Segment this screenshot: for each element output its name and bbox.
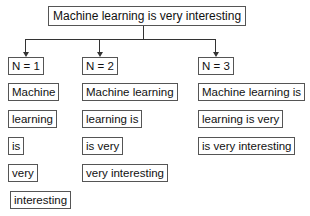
n1-gram: learning [8, 110, 57, 128]
connector-stem [143, 26, 144, 39]
n2-header: N = 2 [82, 57, 118, 75]
n1-gram: Machine [8, 83, 59, 101]
n2-gram: is very [82, 137, 123, 155]
connector-n3 [215, 39, 216, 53]
connector-horizontal [25, 39, 216, 40]
n3-gram: Machine learning is [198, 83, 305, 101]
n1-gram: very [8, 164, 38, 182]
n1-gram: interesting [10, 191, 71, 209]
root-sentence-box: Machine learning is very interesting [48, 6, 246, 26]
n3-gram: is very interesting [198, 137, 295, 155]
n2-gram: very interesting [82, 164, 168, 182]
n2-gram: Machine learning [82, 83, 178, 101]
n1-header: N = 1 [8, 57, 44, 75]
n3-gram: learning is very [198, 110, 283, 128]
connector-n2 [99, 39, 100, 53]
n3-header: N = 3 [198, 57, 234, 75]
n1-gram: is [8, 137, 24, 155]
n2-gram: learning is [82, 110, 142, 128]
connector-n1 [25, 39, 26, 53]
